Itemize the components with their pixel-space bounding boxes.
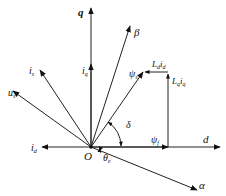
psi-s-label: ψs xyxy=(129,68,138,80)
u-s-label: us xyxy=(8,87,16,99)
q-axis-label: q xyxy=(78,6,84,18)
psi-f-label: ψf xyxy=(151,134,160,146)
delta-angle-arc xyxy=(108,122,121,146)
delta-label: δ xyxy=(126,119,131,130)
i-d-label: id xyxy=(31,142,38,154)
theta-e-label: θe xyxy=(103,152,111,164)
alpha-axis-label: α xyxy=(199,179,205,191)
d-axis-label: d xyxy=(203,133,209,145)
origin-label: O xyxy=(84,150,92,162)
beta-axis-label: β xyxy=(133,26,140,38)
vector-diagram: q β iq is us ψs Ldid Lqiq δ ψf d id O θe… xyxy=(0,0,226,196)
beta-axis xyxy=(91,26,130,147)
origin-point xyxy=(89,145,93,149)
lq-iq-label: Lqiq xyxy=(171,76,186,87)
i-s-vector xyxy=(40,70,91,147)
ld-id-label: Ldid xyxy=(151,59,167,70)
i-s-label: is xyxy=(29,65,35,77)
i-q-label: iq xyxy=(82,65,88,77)
u-s-vector xyxy=(13,91,91,147)
psi-s-vector xyxy=(91,72,143,147)
